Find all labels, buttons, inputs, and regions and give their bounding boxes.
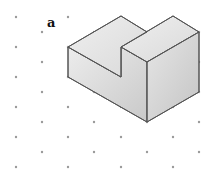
grid-dot [15, 46, 17, 48]
grid-dot [41, 121, 43, 123]
grid-dot [67, 136, 69, 138]
grid-dot [41, 91, 43, 93]
grid-dot [67, 106, 69, 108]
grid-dot [93, 121, 95, 123]
grid-dot [198, 151, 200, 153]
grid-dot [67, 166, 69, 168]
figure-label: a [47, 15, 56, 30]
grid-dot [15, 136, 17, 138]
grid-dot [172, 136, 174, 138]
grid-dot [120, 166, 122, 168]
grid-dot [15, 166, 17, 168]
grid-dot [15, 76, 17, 78]
solid-shape [68, 16, 199, 122]
isometric-figure: a [0, 0, 215, 178]
grid-dot [15, 16, 17, 18]
grid-dot [120, 136, 122, 138]
grid-dot [41, 31, 43, 33]
grid-dot [67, 16, 69, 18]
grid-dot [15, 106, 17, 108]
grid-dot [93, 151, 95, 153]
grid-dot [172, 166, 174, 168]
grid-dot [146, 151, 148, 153]
grid-dot [41, 151, 43, 153]
grid-dot [41, 61, 43, 63]
grid-dot [198, 121, 200, 123]
